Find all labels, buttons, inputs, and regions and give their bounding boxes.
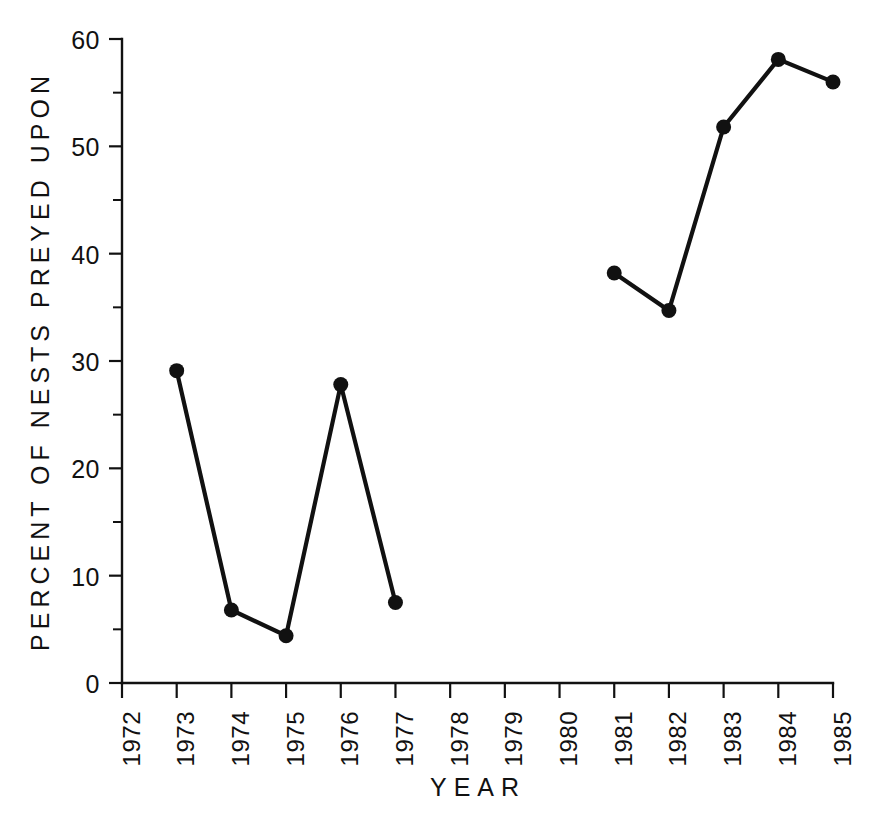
chart-background <box>0 0 874 814</box>
line-chart: 0102030405060 19721973197419751976197719… <box>0 0 874 814</box>
data-point-marker <box>169 363 184 378</box>
y-axis-tick-label: 20 <box>71 455 100 483</box>
y-axis-tick-label: 50 <box>71 133 100 161</box>
figure-container: 0102030405060 19721973197419751976197719… <box>0 0 874 814</box>
y-axis-title: PERCENT OF NESTS PREYED UPON <box>26 71 54 651</box>
x-axis-tick-label: 1979 <box>500 711 527 766</box>
x-axis-tick-label: 1985 <box>829 711 856 766</box>
data-point-marker <box>661 303 676 318</box>
x-axis-tick-label: 1982 <box>664 711 691 766</box>
x-axis-tick-label: 1981 <box>610 711 637 766</box>
data-point-marker <box>224 603 239 618</box>
data-point-marker <box>388 595 403 610</box>
y-axis-tick-label: 60 <box>71 26 100 54</box>
data-point-marker <box>333 377 348 392</box>
y-axis-tick-label: 40 <box>71 241 100 269</box>
data-point-marker <box>716 120 731 135</box>
x-axis-tick-label: 1977 <box>391 711 418 766</box>
x-axis-tick-label: 1984 <box>774 711 801 766</box>
x-axis-tick-label: 1980 <box>555 711 582 766</box>
x-axis-tick-label: 1973 <box>172 711 199 766</box>
x-axis-tick-label: 1975 <box>282 711 309 766</box>
data-point-marker <box>771 52 786 67</box>
y-axis-tick-label: 10 <box>71 563 100 591</box>
data-point-marker <box>279 628 294 643</box>
x-axis-title: YEAR <box>430 773 526 801</box>
x-axis-tick-label: 1976 <box>336 711 363 766</box>
data-point-marker <box>607 265 622 280</box>
x-axis-tick-label: 1972 <box>118 711 145 766</box>
x-axis-tick-label: 1983 <box>719 711 746 766</box>
x-axis-tick-label: 1978 <box>446 711 473 766</box>
y-axis-tick-label: 30 <box>71 348 100 376</box>
y-axis-tick-label: 0 <box>86 670 100 698</box>
x-axis-tick-label: 1974 <box>227 711 254 766</box>
data-point-marker <box>826 74 841 89</box>
